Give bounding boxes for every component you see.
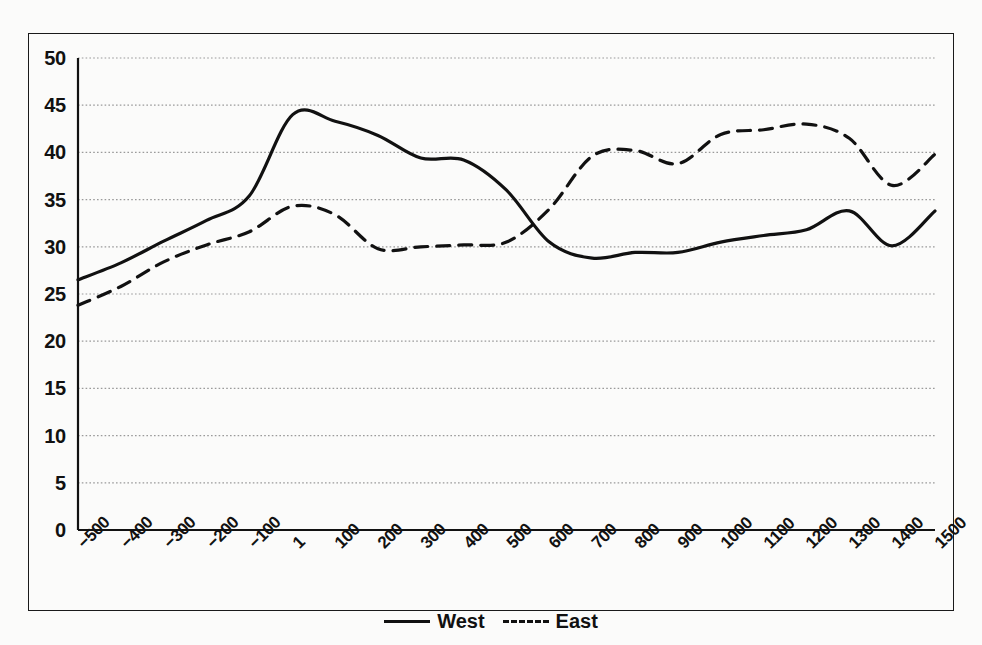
legend-entry-east: East xyxy=(503,611,598,631)
legend-label: East xyxy=(556,611,598,631)
legend-swatch-solid-line-icon xyxy=(384,620,430,623)
y-tick-label: 0 xyxy=(26,519,66,542)
y-tick-label: 5 xyxy=(26,471,66,494)
legend-entry-west: West xyxy=(384,611,484,631)
y-tick-label: 25 xyxy=(26,283,66,306)
y-tick-label: 30 xyxy=(26,235,66,258)
y-tick-label: 10 xyxy=(26,424,66,447)
y-tick-label: 15 xyxy=(26,377,66,400)
y-tick-label: 40 xyxy=(26,141,66,164)
y-tick-label: 35 xyxy=(26,188,66,211)
y-tick-label: 20 xyxy=(26,330,66,353)
legend-swatch-dashed-line-icon xyxy=(503,620,549,623)
legend-label: West xyxy=(437,611,484,631)
y-tick-label: 45 xyxy=(26,94,66,117)
y-tick-label: 50 xyxy=(26,47,66,70)
chart-legend: WestEast xyxy=(28,611,954,631)
